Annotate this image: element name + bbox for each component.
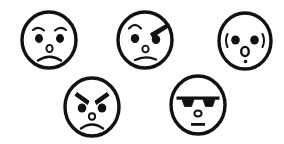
mouth-open-oval bbox=[241, 47, 249, 56]
eye-left bbox=[131, 34, 139, 43]
emoticon-faces-image: Five hand-drawn cartoon emoticon faces s… bbox=[0, 0, 284, 144]
face-outline bbox=[118, 12, 172, 68]
eye-left bbox=[231, 35, 240, 44]
eye-right-lidded bbox=[203, 100, 215, 107]
nose bbox=[142, 46, 148, 53]
mouth-flat bbox=[191, 123, 205, 126]
eye-left bbox=[78, 103, 87, 112]
face-outline bbox=[65, 78, 119, 136]
face-skeptical-angry bbox=[118, 12, 172, 68]
eye-right bbox=[152, 35, 160, 44]
eye-right bbox=[250, 35, 259, 44]
face-unamused bbox=[171, 76, 225, 134]
face-sad-worried bbox=[22, 12, 76, 68]
faces-canvas bbox=[0, 0, 284, 144]
face-angry bbox=[65, 78, 119, 136]
nose bbox=[46, 45, 52, 52]
nose bbox=[194, 111, 201, 117]
eye-left bbox=[35, 34, 43, 43]
eye-right bbox=[56, 34, 64, 43]
chin-dot bbox=[244, 60, 248, 64]
eye-right bbox=[98, 103, 107, 112]
eye-left-lidded bbox=[182, 100, 194, 107]
face-surprised bbox=[219, 13, 271, 69]
face-outline bbox=[22, 12, 76, 68]
nose bbox=[89, 113, 95, 119]
